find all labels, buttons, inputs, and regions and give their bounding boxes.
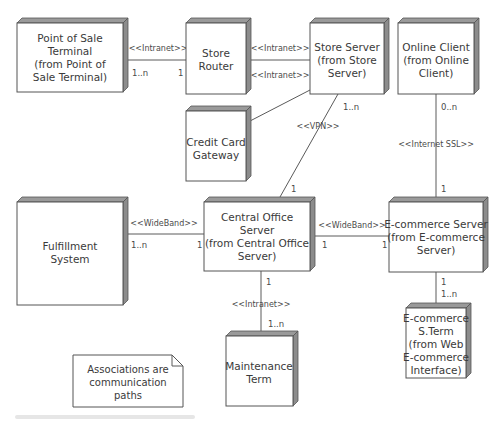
- svg-text:Point of Sale: Point of Sale: [37, 32, 102, 44]
- svg-text:E-commerce Server: E-commerce Server: [384, 218, 488, 230]
- node-fulfillment-system[interactable]: Fulfillment System: [17, 197, 128, 305]
- svg-text:Server): Server): [238, 250, 277, 262]
- svg-text:communication: communication: [89, 377, 166, 388]
- svg-text:Central Office: Central Office: [221, 211, 293, 223]
- svg-text:Maintenance: Maintenance: [225, 360, 293, 372]
- faded-caption-area: [15, 415, 195, 419]
- svg-text:Router: Router: [199, 60, 234, 72]
- mult-ecomterm: 1..n: [441, 289, 457, 299]
- node-store-server[interactable]: Store Server (from Store Server): [310, 18, 389, 94]
- stereotype-central-ecomserver: <<WideBand>>: [318, 221, 385, 230]
- svg-text:Store Server: Store Server: [314, 41, 380, 53]
- svg-text:(from Online: (from Online: [403, 54, 469, 66]
- mult-storeserver-vpn: 1..n: [343, 102, 359, 112]
- stereotype-central-maintenance: <<Intranet>>: [232, 300, 291, 309]
- svg-text:E-commerce: E-commerce: [403, 351, 469, 363]
- stereotype-internet-ssl: <<Internet SSL>>: [398, 140, 474, 149]
- svg-text:Store: Store: [202, 47, 230, 59]
- mult-ecomserver-term: 1: [441, 277, 446, 287]
- mult-onlineclient: 0..n: [441, 102, 457, 112]
- stereotype-router-storeserver: <<Intranet>>: [251, 44, 310, 53]
- stereotype-vpn: <<VPN>>: [296, 122, 339, 131]
- svg-text:Interface): Interface): [410, 364, 461, 376]
- mult-maintenance: 1..n: [268, 319, 284, 329]
- svg-text:Terminal: Terminal: [47, 45, 92, 57]
- svg-text:E-commerce: E-commerce: [403, 312, 469, 324]
- svg-text:Server: Server: [240, 224, 275, 236]
- node-store-router[interactable]: Store Router: [186, 18, 251, 94]
- node-pos-terminal[interactable]: Point of Sale Terminal (from Point of Sa…: [17, 18, 128, 92]
- node-online-client[interactable]: Online Client (from Online Client): [398, 18, 479, 94]
- mult-central-ecom: 1: [322, 240, 327, 250]
- note-associations: Associations are communication paths: [73, 355, 183, 407]
- svg-text:paths: paths: [114, 390, 142, 401]
- svg-text:(from Store: (from Store: [317, 54, 377, 66]
- svg-text:Fulfillment: Fulfillment: [43, 240, 98, 252]
- deployment-diagram: <<Intranet>> 1..n 1 <<Intranet>> <<Intra…: [0, 0, 502, 421]
- svg-text:Online Client: Online Client: [402, 41, 470, 53]
- mult-central-maint: 1: [266, 277, 271, 287]
- svg-text:Server): Server): [328, 67, 367, 79]
- svg-text:(from E-commerce: (from E-commerce: [387, 231, 485, 243]
- mult-pos: 1..n: [132, 68, 148, 78]
- mult-central-fulfillment: 1: [197, 240, 202, 250]
- svg-text:(from Web: (from Web: [409, 338, 464, 350]
- svg-text:Sale Terminal): Sale Terminal): [33, 71, 107, 83]
- svg-text:Associations are: Associations are: [87, 364, 169, 375]
- stereotype-pos-router: <<Intranet>>: [129, 44, 188, 53]
- mult-ecomserver-ssl: 1: [441, 184, 446, 194]
- mult-central-vpn: 1: [291, 184, 296, 194]
- node-maintenance-term[interactable]: Maintenance Term: [225, 331, 298, 406]
- node-central-office-server[interactable]: Central Office Server (from Central Offi…: [204, 197, 315, 271]
- node-credit-card-gateway[interactable]: Credit Card Gateway: [186, 106, 251, 181]
- svg-text:(from Central Office: (from Central Office: [205, 237, 309, 249]
- mult-router-pos: 1: [178, 68, 183, 78]
- svg-text:S.Term: S.Term: [418, 325, 453, 337]
- svg-text:Client): Client): [419, 67, 454, 79]
- link-storeserver-central: [280, 94, 338, 197]
- stereotype-router-storeserver-2: <<Intranet>>: [251, 71, 310, 80]
- link-ccgateway-storeserver: [250, 90, 310, 121]
- stereotype-fulfillment-central: <<WideBand>>: [130, 219, 197, 228]
- svg-text:Gateway: Gateway: [193, 149, 239, 161]
- svg-text:Term: Term: [245, 373, 271, 385]
- mult-fulfillment: 1..n: [131, 240, 147, 250]
- associations: [128, 60, 436, 331]
- svg-text:Credit Card: Credit Card: [186, 136, 245, 148]
- svg-text:System: System: [50, 253, 89, 265]
- node-ecommerce-sterm[interactable]: E-commerce S.Term (from Web E-commerce I…: [403, 303, 471, 378]
- svg-text:(from Point of: (from Point of: [34, 58, 106, 70]
- node-ecommerce-server[interactable]: E-commerce Server (from E-commerce Serve…: [384, 197, 488, 272]
- svg-text:Server): Server): [417, 244, 456, 256]
